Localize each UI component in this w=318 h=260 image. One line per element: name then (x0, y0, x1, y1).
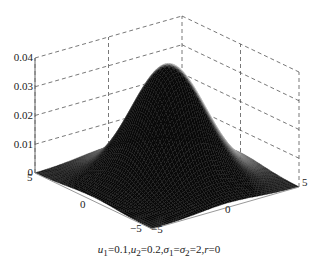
z-tick-label: 0.02 (14, 110, 33, 121)
caption-sigma2-value: =2, (190, 243, 204, 255)
caption-u1-value: =0.1, (108, 243, 131, 255)
y-tick-label: 5 (302, 177, 308, 188)
x-tick-label: −5 (130, 223, 142, 234)
y-tick-label: −5 (151, 224, 163, 235)
surface-plot (0, 0, 318, 260)
z-tick-label: 0.01 (14, 139, 33, 150)
z-tick-label: 0.04 (14, 52, 33, 63)
z-tick-label: 0.03 (14, 81, 33, 92)
figure-caption: u1=0.1,u2=0.2,σ1=σ2=2,r=0 (0, 243, 318, 258)
y-tick-label: 0 (225, 204, 231, 215)
caption-u2-value: =0.2, (141, 243, 164, 255)
x-tick-label: 5 (27, 172, 33, 183)
caption-r-value: =0 (208, 243, 220, 255)
gaussian-surface (35, 63, 299, 228)
x-tick-label: 0 (80, 199, 86, 210)
